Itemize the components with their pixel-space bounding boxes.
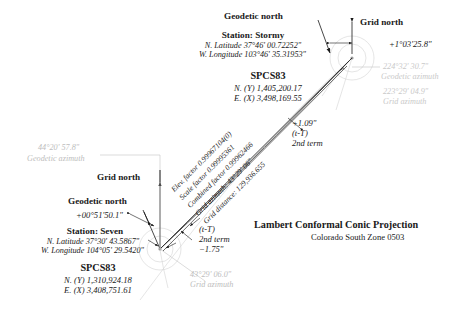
stormy-northing: N. (Y) 1,405,200.17 — [198, 83, 338, 93]
stormy-geodetic-azimuth-value: 224°32' 30.7" — [383, 62, 428, 72]
seven-tT-value: −1.75" — [199, 244, 223, 254]
seven-tT-term: 2nd term — [199, 234, 230, 244]
seven-northing: N. (Y) 1,310,924.18 — [28, 275, 168, 285]
stormy-grid-azimuth-label: Grid azimuth — [383, 97, 426, 107]
stormy-convergence-value: +1°03'25.8" — [389, 39, 432, 49]
stormy-spcs-label: SPCS83 — [203, 70, 333, 82]
stormy-tT-name: (t-T) — [292, 128, 308, 138]
stormy-easting: E. (X) 3,498,169.55 — [198, 93, 338, 103]
seven-geodetic-north-label: Geodetic north — [68, 196, 127, 207]
figure-title: Lambert Conformal Conic Projection — [254, 219, 418, 231]
seven-longitude: W. Longitude 104°05' 29.5420" — [10, 246, 175, 256]
stormy-station-label: Station: Stormy — [193, 30, 313, 41]
seven-grid-north-label: Grid north — [97, 172, 140, 183]
figure-subtitle: Colorado South Zone 0503 — [311, 232, 404, 242]
seven-station-label: Station: Seven — [35, 226, 155, 237]
seven-geodetic-azimuth-value: 44°20' 57.8" — [38, 143, 79, 153]
seven-grid-azimuth-label: Grid azimuth — [190, 280, 233, 290]
stormy-longitude: W. Longitude 103°46' 35.31953" — [170, 50, 335, 60]
stormy-grid-north-label: Grid north — [360, 17, 403, 28]
seven-tT-name: (t-T) — [199, 224, 215, 234]
stormy-geodetic-azimuth-label: Geodetic azimuth — [381, 72, 439, 82]
stormy-tT-value: +1.09" — [292, 118, 316, 128]
seven-spcs-label: SPCS83 — [38, 262, 158, 274]
diagram-canvas: Geodetic north Grid north +1°03'25.8" St… — [0, 0, 461, 312]
stormy-tT-term: 2nd term — [292, 138, 323, 148]
seven-easting: E. (X) 3,408,751.61 — [28, 285, 168, 295]
seven-geodetic-azimuth-label: Geodetic azimuth — [27, 154, 85, 164]
stormy-geodetic-north-label: Geodetic north — [224, 11, 283, 22]
seven-convergence-value: +00°51'50.1" — [76, 210, 123, 220]
seven-grid-azimuth-value: 43°29' 06.0" — [190, 270, 231, 280]
stormy-grid-azimuth-value: 223°29' 04.9" — [383, 87, 428, 97]
